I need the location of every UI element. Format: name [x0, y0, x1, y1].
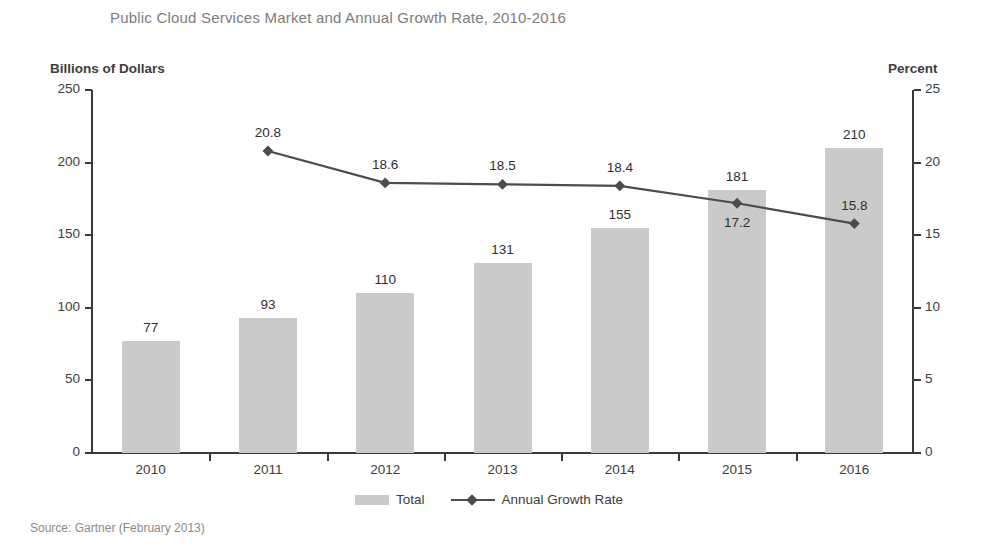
left-tick-label-0: 0: [44, 444, 80, 459]
growth-rate-label-2015: 17.2: [702, 215, 772, 230]
growth-rate-marker-1: [380, 178, 391, 189]
x-tick-2015: [678, 454, 680, 461]
bar-label-2012: 110: [350, 272, 420, 287]
left-tick-150: [85, 234, 92, 236]
growth-rate-label-2014: 18.4: [585, 160, 655, 175]
chart-legend: Total Annual Growth Rate: [355, 492, 623, 507]
left-tick-250: [85, 89, 92, 91]
left-axis-title: Billions of Dollars: [50, 61, 165, 76]
left-tick-label-50: 50: [44, 371, 80, 386]
x-tick-label-2012: 2012: [350, 462, 420, 477]
right-tick-label-25: 25: [925, 81, 965, 96]
growth-rate-marker-2: [497, 179, 508, 190]
right-tick-label-15: 15: [925, 226, 965, 241]
legend-item-total: Total: [355, 492, 425, 507]
legend-swatch-total-icon: [355, 495, 389, 505]
left-tick-100: [85, 307, 92, 309]
left-tick-label-100: 100: [44, 299, 80, 314]
bar-2014: [591, 228, 649, 453]
right-tick-0: [914, 452, 921, 454]
x-tick-2011: [209, 454, 211, 461]
left-tick-0: [85, 452, 92, 454]
x-tick-label-2010: 2010: [116, 462, 186, 477]
left-tick-50: [85, 379, 92, 381]
right-tick-15: [914, 234, 921, 236]
right-tick-label-5: 5: [925, 371, 965, 386]
left-tick-label-150: 150: [44, 226, 80, 241]
bar-label-2013: 131: [468, 242, 538, 257]
bar-label-2011: 93: [233, 297, 303, 312]
bar-label-2014: 155: [585, 207, 655, 222]
right-tick-label-20: 20: [925, 154, 965, 169]
x-tick-2012: [327, 454, 329, 461]
right-tick-25: [914, 89, 921, 91]
right-axis-line: [912, 90, 914, 454]
growth-rate-label-2012: 18.6: [350, 157, 420, 172]
growth-rate-marker-3: [614, 180, 625, 191]
source-note: Source: Gartner (February 2013): [30, 521, 205, 535]
x-tick-label-2011: 2011: [233, 462, 303, 477]
growth-rate-label-2013: 18.5: [468, 158, 538, 173]
left-tick-200: [85, 162, 92, 164]
right-axis-title: Percent: [888, 61, 938, 76]
bar-2011: [239, 318, 297, 453]
bar-2012: [356, 293, 414, 453]
right-tick-label-10: 10: [925, 299, 965, 314]
legend-label-annual-growth-rate: Annual Growth Rate: [502, 492, 624, 507]
x-tick-label-2013: 2013: [468, 462, 538, 477]
legend-item-annual-growth-rate: Annual Growth Rate: [451, 492, 624, 507]
legend-diamond-icon: [466, 494, 477, 505]
bar-label-2010: 77: [116, 320, 186, 335]
bar-2010: [122, 341, 180, 453]
left-tick-label-250: 250: [44, 81, 80, 96]
x-tick-label-2014: 2014: [585, 462, 655, 477]
growth-rate-label-2016: 15.8: [819, 198, 889, 213]
right-tick-10: [914, 307, 921, 309]
x-tick-label-2015: 2015: [702, 462, 772, 477]
left-tick-label-200: 200: [44, 154, 80, 169]
left-axis-line: [91, 90, 93, 454]
bar-2013: [474, 263, 532, 453]
right-tick-label-0: 0: [925, 444, 965, 459]
legend-line-marker-icon: [451, 495, 495, 505]
right-tick-5: [914, 379, 921, 381]
x-tick-2014: [561, 454, 563, 461]
x-tick-2013: [444, 454, 446, 461]
right-tick-20: [914, 162, 921, 164]
legend-label-total: Total: [396, 492, 425, 507]
bar-label-2016: 210: [819, 127, 889, 142]
chart-figure: Public Cloud Services Market and Annual …: [0, 0, 1000, 551]
x-tick-2016: [796, 454, 798, 461]
growth-rate-marker-0: [263, 146, 274, 157]
growth-rate-label-2011: 20.8: [233, 125, 303, 140]
x-tick-label-2016: 2016: [819, 462, 889, 477]
bar-2016: [825, 148, 883, 453]
bar-label-2015: 181: [702, 169, 772, 184]
chart-title: Public Cloud Services Market and Annual …: [110, 9, 730, 26]
